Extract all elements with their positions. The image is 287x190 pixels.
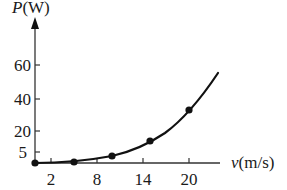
data-point — [70, 158, 77, 165]
y-axis-label: P(W) — [11, 0, 50, 17]
y-tick-40: 40 — [14, 90, 31, 109]
data-point — [146, 137, 153, 144]
y-tick-20: 20 — [14, 122, 31, 141]
data-points — [31, 106, 192, 166]
chart: 60 40 20 5 P(W) 2 8 14 20 v(m/s) — [0, 0, 287, 190]
x-axis-label: v(m/s) — [231, 153, 274, 172]
x-tick-20: 20 — [181, 170, 198, 189]
data-point — [185, 106, 192, 113]
x-axis: 2 8 14 20 v(m/s) — [35, 153, 274, 189]
y-tick-5: 5 — [19, 143, 28, 162]
x-tick-2: 2 — [47, 170, 56, 189]
y-axis-arrow-icon — [31, 17, 39, 29]
x-tick-14: 14 — [135, 170, 153, 189]
power-curve — [35, 73, 218, 163]
data-point — [108, 152, 115, 159]
y-axis: 60 40 20 5 P(W) — [11, 0, 50, 163]
y-tick-60: 60 — [14, 56, 31, 75]
data-point — [31, 159, 38, 166]
x-tick-8: 8 — [93, 170, 102, 189]
